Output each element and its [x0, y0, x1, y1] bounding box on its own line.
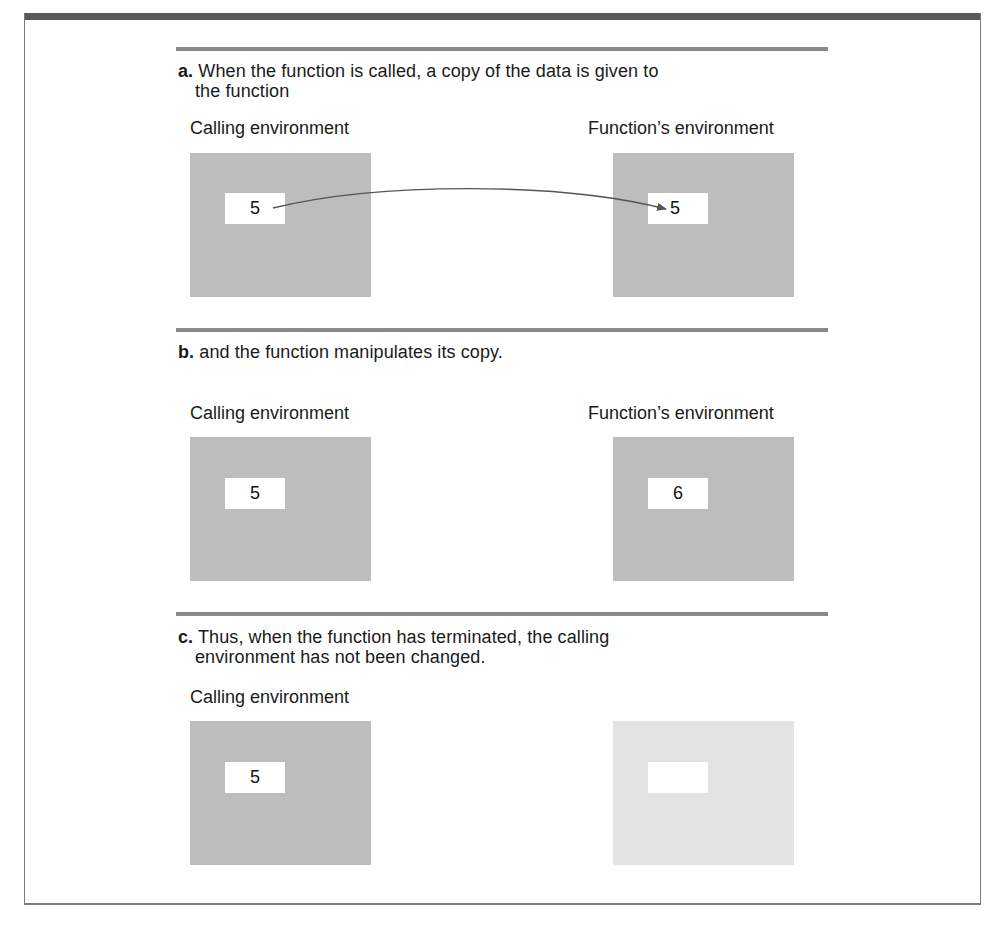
step-c-text-line2: environment has not been changed.	[178, 647, 609, 667]
step-c-calling-environment	[190, 721, 371, 865]
step-b-function-value: 6	[648, 478, 708, 509]
step-c-calling-value: 5	[225, 762, 285, 793]
step-c-function-environment-terminated	[613, 721, 794, 865]
section-c-divider	[176, 612, 828, 616]
step-b-text-line1: and the function manipulates its copy.	[194, 342, 503, 362]
step-b-marker: b.	[178, 342, 194, 362]
section-b-divider	[176, 328, 828, 332]
step-b-calling-value: 5	[225, 478, 285, 509]
step-b-function-label: Function’s environment	[588, 403, 774, 423]
step-b-function-environment	[613, 437, 794, 581]
step-c-marker: c.	[178, 627, 193, 647]
step-b-calling-label: Calling environment	[190, 403, 349, 423]
step-c-text-line1: Thus, when the function has terminated, …	[193, 627, 609, 647]
step-b-calling-environment	[190, 437, 371, 581]
step-c-calling-label: Calling environment	[190, 687, 349, 707]
step-c-caption: c. Thus, when the function has terminate…	[178, 627, 609, 667]
step-c-function-value-empty	[648, 762, 708, 793]
copy-arrow-icon	[0, 0, 1003, 933]
step-b-caption: b. and the function manipulates its copy…	[178, 342, 503, 362]
